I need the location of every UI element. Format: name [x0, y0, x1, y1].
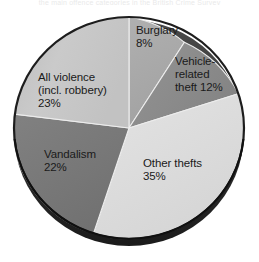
- pie-chart-figure: the main offence categories in the Briti…: [0, 0, 259, 262]
- pie-label-other-thefts: Other thefts 35%: [143, 157, 227, 183]
- pie-label-vehicle-related-theft: Vehicle- related theft 12%: [175, 55, 245, 95]
- pie-label-all-violence: All violence (incl. robbery) 23%: [38, 71, 134, 111]
- pie-chart-graphic: [0, 0, 259, 262]
- pie-label-vandalism: Vandalism 22%: [44, 148, 124, 174]
- pie-label-burglary: Burglary 8%: [136, 24, 198, 50]
